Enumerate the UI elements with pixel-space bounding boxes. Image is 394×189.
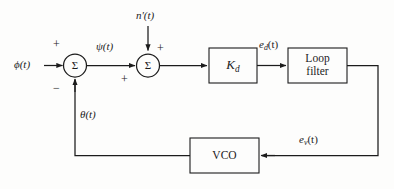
- block-diagram-canvas: Σ Σ ϕ(t) ψ(t) n'(t) θ(t) ed(t) ev(t) + −…: [0, 0, 394, 189]
- vco-input-tail: (t): [307, 133, 317, 145]
- input-signal-label: ϕ(t): [14, 59, 30, 70]
- input-summer-minus-sign: −: [53, 82, 60, 94]
- detector-output-tail: (t): [268, 38, 278, 50]
- kd-base: K: [226, 57, 235, 72]
- input-summer-plus-sign: +: [53, 38, 60, 50]
- kd-block-label: Kd: [209, 58, 257, 74]
- error-signal-label: ψ(t): [96, 41, 113, 52]
- input-summer-symbol: Σ: [69, 60, 81, 71]
- vco-input-signal-label: ev(t): [299, 134, 318, 147]
- feedback-signal-label: θ(t): [80, 109, 96, 120]
- noise-summer-symbol: Σ: [142, 60, 154, 71]
- detector-output-signal-label: ed(t): [259, 39, 278, 52]
- noise-summer-plus-sign-top: +: [157, 42, 164, 54]
- noise-summer-plus-sign-left: +: [121, 73, 128, 85]
- vco-block-label: VCO: [190, 149, 259, 162]
- kd-subscript: d: [235, 64, 240, 74]
- loop-filter-block-label: Loop filter: [288, 52, 347, 78]
- noise-signal-label: n'(t): [136, 10, 154, 21]
